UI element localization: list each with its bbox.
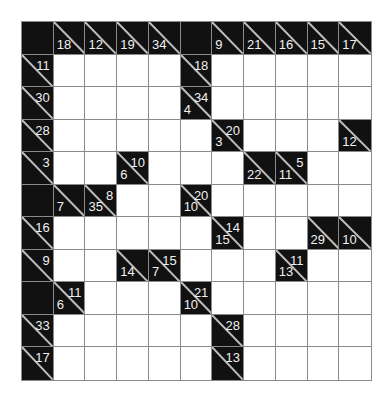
- entry-cell[interactable]: [244, 250, 276, 283]
- blank-block-cell: [22, 282, 54, 315]
- entry-cell[interactable]: [117, 347, 149, 380]
- entry-cell[interactable]: [339, 250, 371, 283]
- entry-cell[interactable]: [117, 120, 149, 153]
- entry-cell[interactable]: [117, 282, 149, 315]
- down-clue: 7: [152, 265, 159, 278]
- entry-cell[interactable]: [276, 347, 308, 380]
- entry-cell[interactable]: [212, 282, 244, 315]
- entry-cell[interactable]: [54, 120, 86, 153]
- clue-cell: 16: [22, 217, 54, 250]
- entry-cell[interactable]: [276, 120, 308, 153]
- entry-cell[interactable]: [339, 282, 371, 315]
- entry-cell[interactable]: [212, 152, 244, 185]
- entry-cell[interactable]: [117, 185, 149, 218]
- entry-cell[interactable]: [117, 55, 149, 88]
- across-clue: 8: [106, 189, 113, 202]
- down-clue: 15: [311, 38, 325, 51]
- entry-cell[interactable]: [244, 185, 276, 218]
- entry-cell[interactable]: [85, 347, 117, 380]
- entry-cell[interactable]: [212, 250, 244, 283]
- entry-cell[interactable]: [212, 55, 244, 88]
- entry-cell[interactable]: [85, 55, 117, 88]
- entry-cell[interactable]: [149, 282, 181, 315]
- entry-cell[interactable]: [308, 87, 340, 120]
- blank-block-cell: [181, 22, 213, 55]
- clue-cell: 29: [308, 217, 340, 250]
- entry-cell[interactable]: [276, 315, 308, 348]
- entry-cell[interactable]: [339, 315, 371, 348]
- across-clue: 28: [226, 319, 240, 332]
- entry-cell[interactable]: [181, 347, 213, 380]
- entry-cell[interactable]: [54, 152, 86, 185]
- entry-cell[interactable]: [339, 152, 371, 185]
- clue-cell: 33: [22, 315, 54, 348]
- entry-cell[interactable]: [85, 217, 117, 250]
- clue-cell: 12: [85, 22, 117, 55]
- entry-cell[interactable]: [54, 315, 86, 348]
- entry-cell[interactable]: [276, 282, 308, 315]
- entry-cell[interactable]: [149, 315, 181, 348]
- entry-cell[interactable]: [244, 217, 276, 250]
- entry-cell[interactable]: [212, 185, 244, 218]
- entry-cell[interactable]: [339, 185, 371, 218]
- entry-cell[interactable]: [149, 347, 181, 380]
- entry-cell[interactable]: [117, 315, 149, 348]
- clue-cell: 19: [117, 22, 149, 55]
- entry-cell[interactable]: [54, 347, 86, 380]
- entry-cell[interactable]: [212, 87, 244, 120]
- entry-cell[interactable]: [181, 217, 213, 250]
- entry-cell[interactable]: [244, 120, 276, 153]
- entry-cell[interactable]: [117, 217, 149, 250]
- entry-cell[interactable]: [339, 87, 371, 120]
- entry-cell[interactable]: [339, 55, 371, 88]
- across-clue: 10: [130, 156, 144, 169]
- entry-cell[interactable]: [181, 152, 213, 185]
- entry-cell[interactable]: [54, 217, 86, 250]
- entry-cell[interactable]: [308, 152, 340, 185]
- entry-cell[interactable]: [85, 315, 117, 348]
- entry-cell[interactable]: [117, 87, 149, 120]
- entry-cell[interactable]: [308, 185, 340, 218]
- entry-cell[interactable]: [276, 185, 308, 218]
- entry-cell[interactable]: [85, 152, 117, 185]
- clue-cell: 17: [22, 347, 54, 380]
- entry-cell[interactable]: [308, 347, 340, 380]
- entry-cell[interactable]: [149, 185, 181, 218]
- entry-cell[interactable]: [339, 347, 371, 380]
- entry-cell[interactable]: [85, 87, 117, 120]
- down-clue: 12: [342, 135, 356, 148]
- entry-cell[interactable]: [244, 315, 276, 348]
- entry-cell[interactable]: [149, 217, 181, 250]
- clue-cell: 21: [244, 22, 276, 55]
- clue-cell: 16: [276, 22, 308, 55]
- entry-cell[interactable]: [54, 250, 86, 283]
- entry-cell[interactable]: [244, 87, 276, 120]
- entry-cell[interactable]: [85, 282, 117, 315]
- entry-cell[interactable]: [276, 217, 308, 250]
- entry-cell[interactable]: [244, 282, 276, 315]
- entry-cell[interactable]: [149, 120, 181, 153]
- clue-cell: 28: [212, 315, 244, 348]
- entry-cell[interactable]: [181, 315, 213, 348]
- entry-cell[interactable]: [149, 87, 181, 120]
- entry-cell[interactable]: [308, 282, 340, 315]
- entry-cell[interactable]: [54, 55, 86, 88]
- entry-cell[interactable]: [308, 250, 340, 283]
- entry-cell[interactable]: [308, 55, 340, 88]
- entry-cell[interactable]: [85, 250, 117, 283]
- entry-cell[interactable]: [181, 120, 213, 153]
- entry-cell[interactable]: [149, 152, 181, 185]
- down-clue: 6: [57, 298, 64, 311]
- entry-cell[interactable]: [276, 87, 308, 120]
- entry-cell[interactable]: [54, 87, 86, 120]
- entry-cell[interactable]: [244, 347, 276, 380]
- entry-cell[interactable]: [181, 250, 213, 283]
- entry-cell[interactable]: [149, 55, 181, 88]
- entry-cell[interactable]: [85, 120, 117, 153]
- entry-cell[interactable]: [308, 315, 340, 348]
- entry-cell[interactable]: [276, 55, 308, 88]
- entry-cell[interactable]: [244, 55, 276, 88]
- entry-cell[interactable]: [308, 120, 340, 153]
- clue-cell: 1113: [276, 250, 308, 283]
- clue-cell: 10: [339, 217, 371, 250]
